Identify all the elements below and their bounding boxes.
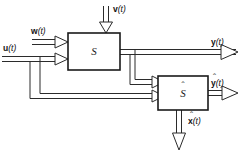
signal-label-noise: w(t) xyxy=(30,26,46,36)
signal-path-state-estimate xyxy=(173,110,186,150)
signal-path-output-estimate xyxy=(208,86,238,100)
signal-path-noise xyxy=(32,36,68,48)
signal-path-disturbance xyxy=(100,6,113,33)
signal-label-output: y(t) xyxy=(211,37,224,47)
signal-label-state-estimate: x(t) xyxy=(188,116,201,126)
signal-label-control: u(t) xyxy=(3,43,16,53)
signal-label-output-estimate: y(t) xyxy=(211,78,224,88)
state-estimate-hat-icon: ̂ xyxy=(190,111,194,113)
output-estimate-hat-icon: ̂ xyxy=(213,73,217,75)
signal-label-output-estimate-group: ̂ y(t) xyxy=(211,73,224,88)
block-diagram: S ̂ S v(t) w(t) u(t) y(t) ̂ y(t) ̂ x(t) xyxy=(0,0,247,156)
block-plant[interactable]: S xyxy=(68,33,120,70)
signal-label-disturbance: v(t) xyxy=(113,4,126,14)
block-estimator-label: S xyxy=(180,87,186,99)
block-estimator[interactable]: ̂ S xyxy=(158,76,208,110)
signal-label-state-estimate-group: ̂ x(t) xyxy=(188,111,201,126)
diagram-canvas: S ̂ S v(t) w(t) u(t) y(t) ̂ y(t) ̂ x(t) xyxy=(0,0,247,156)
block-plant-label: S xyxy=(91,45,97,57)
